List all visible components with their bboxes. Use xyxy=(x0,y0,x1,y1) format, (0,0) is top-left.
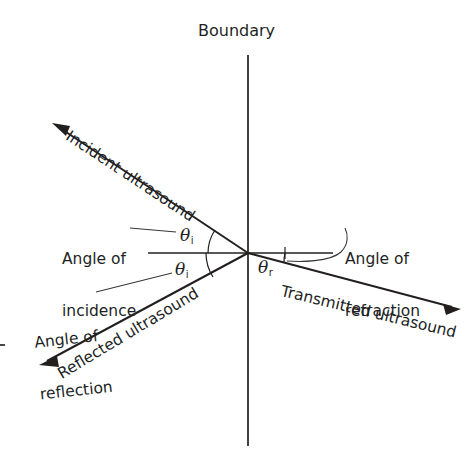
theta-i-reflected-symbol: θ xyxy=(175,259,185,279)
theta-r-refracted-subscript: r xyxy=(269,267,273,278)
scan-edge-artifact xyxy=(0,344,5,346)
angle-of-refraction-leader xyxy=(287,228,347,261)
angle-of-incidence-line1: Angle of xyxy=(62,251,136,268)
page-title: Boundary xyxy=(0,22,473,40)
theta-i-reflected-subscript: i xyxy=(186,269,189,280)
theta-r-refracted-label: θr xyxy=(258,258,272,277)
theta-i-incident-symbol: θ xyxy=(180,225,190,245)
angle-of-refraction-label: Angle of refraction xyxy=(345,216,420,355)
angle-of-reflection-line2: reflection xyxy=(39,379,114,404)
angle-of-refraction-line1: Angle of xyxy=(345,251,420,268)
ultrasound-boundary-diagram: Boundary Angle of incidence Angle of ref… xyxy=(0,0,473,462)
theta-i-incident-arc xyxy=(208,230,215,253)
theta-i-incident-label: θi xyxy=(180,226,193,245)
angle-of-incidence-leader xyxy=(130,228,176,232)
theta-i-reflected-label: θi xyxy=(175,260,188,279)
theta-i-incident-subscript: i xyxy=(191,235,194,246)
theta-r-refracted-symbol: θ xyxy=(258,257,268,277)
